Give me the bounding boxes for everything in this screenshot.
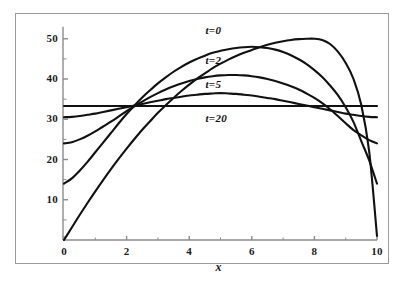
curve-label-t0: t=0 bbox=[206, 24, 222, 36]
x-tick-label: 2 bbox=[113, 245, 141, 257]
curve-label-t20: t=20 bbox=[206, 112, 228, 124]
y-tick-label: 50 bbox=[26, 32, 58, 44]
y-tick-label: 30 bbox=[26, 112, 58, 124]
y-tick-label: 20 bbox=[26, 153, 58, 165]
x-tick-label: 0 bbox=[50, 245, 78, 257]
plot-canvas bbox=[0, 0, 408, 282]
x-tick-label: 8 bbox=[300, 245, 328, 257]
y-tick-label: 10 bbox=[26, 193, 58, 205]
x-tick-label: 4 bbox=[175, 245, 203, 257]
curve-label-t5: t=5 bbox=[206, 78, 222, 90]
x-axis-title: x bbox=[216, 260, 222, 275]
curve-label-t2: t=2 bbox=[206, 54, 222, 66]
x-tick-label: 10 bbox=[363, 245, 391, 257]
y-tick-label: 40 bbox=[26, 72, 58, 84]
curve-t0 bbox=[64, 39, 377, 240]
x-tick-label: 6 bbox=[238, 245, 266, 257]
curves-group bbox=[64, 39, 377, 240]
figure-root: 1020304050 0246810 t=0t=2t=5t=20 x bbox=[0, 0, 408, 282]
